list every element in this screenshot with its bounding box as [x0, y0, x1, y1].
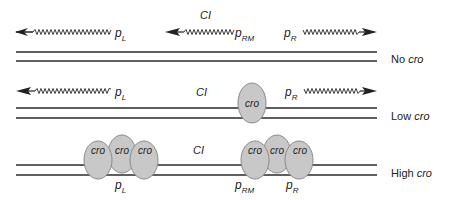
ci-gene-label: CI — [193, 144, 204, 156]
promoter-prm-label: pRM — [234, 178, 254, 195]
cro-protein-label: cro — [91, 145, 105, 156]
dna-double-strand — [16, 165, 377, 175]
condition-label-no-cro: No cro — [391, 53, 423, 65]
cro-protein-label: cro — [138, 145, 152, 156]
row-no-cro: pL CI pRM pR No cro — [15, 9, 423, 65]
pr-transcript-arrow — [303, 28, 377, 36]
dna-double-strand — [16, 52, 377, 61]
row-high-cro: cro cro cro pL CI cro cro cro pRM pR Hig… — [16, 135, 432, 195]
ci-gene-label: CI — [200, 9, 211, 21]
cro-protein-label: cro — [245, 98, 259, 109]
promoter-pl-label: pL — [114, 178, 126, 195]
cro-protein-label: cro — [270, 145, 284, 156]
ci-gene-label: CI — [196, 86, 207, 98]
prm-transcript-arrow — [165, 28, 234, 36]
promoter-pr-label: pR — [285, 178, 299, 195]
promoter-pl-label: pL — [114, 26, 126, 43]
promoter-pl-label: pL — [114, 85, 126, 102]
cro-regulation-diagram: pL CI pRM pR No cro pL CI — [0, 0, 451, 200]
cro-protein-label: cro — [115, 145, 129, 156]
condition-label-high-cro: High cro — [391, 167, 432, 179]
dna-double-strand — [16, 108, 377, 118]
cro-protein-label: cro — [248, 145, 262, 156]
condition-label-low-cro: Low cro — [391, 110, 430, 122]
cro-protein-label: cro — [293, 145, 307, 156]
promoter-prm-label: pRM — [234, 26, 254, 43]
promoter-pr-label: pR — [284, 85, 298, 102]
pr-transcript-arrow — [304, 87, 377, 95]
promoter-pr-label: pR — [283, 26, 297, 43]
pl-transcript-arrow — [16, 87, 111, 95]
cro-cluster-pl: cro cro cro — [84, 135, 158, 179]
pl-transcript-arrow — [15, 28, 111, 36]
cro-protein-bound: cro — [238, 83, 266, 123]
cro-cluster-prm-pr: cro cro cro — [241, 135, 313, 179]
row-low-cro: pL CI cro pR Low cro — [16, 83, 430, 123]
